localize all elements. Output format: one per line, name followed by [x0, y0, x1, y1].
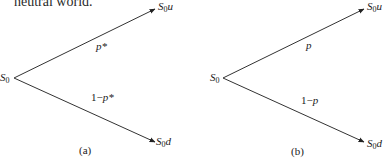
binomial-tree-diagram: [0, 0, 387, 161]
tree-a-down-probability: 1−p*: [91, 92, 114, 103]
tree-a-up-probability: p*: [96, 41, 107, 52]
tree-a-down-branch: [14, 78, 155, 142]
tree-b-down-probability: 1−p: [301, 95, 318, 106]
tree-b-up-node: S0u: [367, 1, 382, 14]
tree-b-down-node: S0d: [367, 138, 382, 151]
tree-b-down-branch: [223, 78, 364, 142]
tree-a-up-node: S0u: [158, 1, 173, 14]
tree-b-up-probability: p: [306, 40, 312, 51]
tree-a-root-node: S0: [0, 72, 10, 85]
tree-b-caption: (b): [291, 146, 304, 157]
tree-a-down-node: S0d: [156, 136, 171, 149]
tree-a-caption: (a): [79, 145, 91, 156]
tree-a-up-branch: [14, 9, 155, 78]
tree-b-root-node: S0: [210, 72, 220, 85]
tree-b-up-branch: [223, 9, 364, 78]
